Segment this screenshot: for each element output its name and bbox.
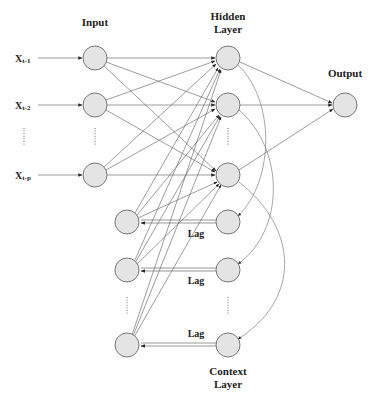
hidden-to-output-edges (239, 62, 333, 170)
svg-text:Xt-1: Xt-1 (15, 53, 31, 65)
context-right-nodes (216, 210, 240, 357)
input-nodes (83, 46, 107, 187)
input-label-x-t-1: Xt-1 (15, 53, 31, 65)
lag-label-3: Lag (188, 328, 205, 339)
output-node (333, 93, 357, 117)
context-left-node-1 (115, 210, 139, 234)
lag-label-1: Lag (188, 228, 205, 239)
hidden-node-1 (216, 46, 240, 70)
hidden-node-2 (216, 93, 240, 117)
lag-connections (141, 220, 216, 346)
context-right-node-2 (216, 258, 240, 282)
context-right-node-1 (216, 210, 240, 234)
context-right-node-n (216, 333, 240, 357)
recurrent-copy-arcs (238, 65, 285, 339)
hidden-node-n (216, 163, 240, 187)
svg-text:Xt-2: Xt-2 (15, 100, 31, 112)
hidden-layer-label-line1: Hidden (211, 10, 246, 22)
context-layer-label-line2: Layer (214, 378, 242, 390)
input-label-x-t-p: Xt-p (15, 170, 31, 182)
input-node-1 (83, 46, 107, 70)
svg-text:Xt-p: Xt-p (15, 170, 31, 182)
context-left-node-n (115, 333, 139, 357)
input-layer-label: Input (82, 16, 109, 28)
context-to-hidden-edges (132, 68, 221, 337)
output-layer-label: Output (328, 67, 363, 79)
input-to-hidden-edges (104, 58, 216, 175)
input-arrows (38, 58, 82, 175)
hidden-layer-label-line2: Layer (214, 23, 242, 35)
input-node-2 (83, 93, 107, 117)
context-left-node-2 (115, 258, 139, 282)
context-layer-label-line1: Context (209, 365, 247, 377)
lag-label-2: Lag (188, 275, 205, 286)
input-node-p (83, 163, 107, 187)
input-label-x-t-2: Xt-2 (15, 100, 31, 112)
elman-network-diagram: Input Hidden Layer Output Context Layer … (0, 0, 370, 401)
